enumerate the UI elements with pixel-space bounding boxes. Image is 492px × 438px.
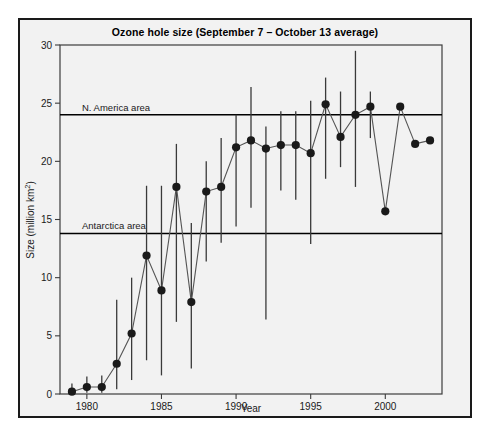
data-point-marker xyxy=(411,140,419,148)
data-point-marker xyxy=(381,207,389,215)
data-point-marker xyxy=(68,388,76,396)
data-point-marker xyxy=(351,111,359,119)
data-point-marker xyxy=(113,360,121,368)
y-axis: 051015202530 xyxy=(41,40,60,400)
y-tick-label: 10 xyxy=(41,272,53,283)
data-point-marker xyxy=(366,103,374,111)
y-tick-label: 15 xyxy=(41,214,53,225)
data-point-marker xyxy=(187,298,195,306)
x-tick-label: 2000 xyxy=(374,401,397,412)
x-tick-label: 1985 xyxy=(150,401,173,412)
data-point-marker xyxy=(202,187,210,195)
data-point-marker xyxy=(426,136,434,144)
data-point-marker xyxy=(292,141,300,149)
x-tick-label: 1980 xyxy=(76,401,99,412)
y-axis-title: Size (million km2) xyxy=(23,181,37,259)
reference-line-label: N. America area xyxy=(82,102,151,113)
y-tick-label: 25 xyxy=(41,98,53,109)
data-point-marker xyxy=(157,286,165,294)
data-point-marker xyxy=(396,103,404,111)
data-point-marker xyxy=(98,383,106,391)
data-point-marker xyxy=(307,149,315,157)
data-point-marker xyxy=(83,383,91,391)
data-point-marker xyxy=(277,141,285,149)
y-tick-label: 0 xyxy=(46,389,52,400)
data-point-marker xyxy=(172,183,180,191)
ozone-hole-size-chart: 051015202530 19801985199019952000 N. Ame… xyxy=(20,20,470,416)
data-point-marker xyxy=(128,329,136,337)
data-point-marker xyxy=(217,183,225,191)
y-tick-label: 20 xyxy=(41,156,53,167)
figure-panel: Ozone hole size (September 7 – October 1… xyxy=(18,18,472,418)
y-axis-title-close: ) xyxy=(25,181,36,184)
y-axis-title-main: Size (million km xyxy=(25,189,36,259)
data-point-marker xyxy=(247,136,255,144)
x-tick-label: 1995 xyxy=(300,401,323,412)
reference-line-label: Antarctica area xyxy=(82,220,147,231)
data-point-marker xyxy=(336,133,344,141)
y-tick-label: 5 xyxy=(46,330,52,341)
data-point-marker xyxy=(232,143,240,151)
data-point-marker xyxy=(322,100,330,108)
data-point-marker xyxy=(262,144,270,152)
x-axis: 19801985199019952000 xyxy=(76,394,397,412)
x-axis-title: Year xyxy=(241,403,262,414)
data-point-marker xyxy=(142,251,150,259)
y-tick-label: 30 xyxy=(41,40,53,51)
